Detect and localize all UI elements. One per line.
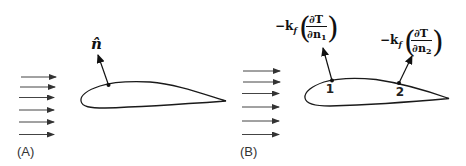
normal-vector-arrow [98, 55, 109, 85]
heat-flux-arrow [323, 48, 332, 81]
svg-text:−kf: −kf [380, 33, 403, 49]
right-paren: ) [327, 10, 339, 45]
heat-flux-label-2: −kf ( ∂T ∂n2 ) [380, 24, 444, 59]
airfoil-a [81, 82, 226, 108]
denominator: ∂n [307, 28, 321, 41]
panel-label-a: (A) [17, 144, 34, 159]
right-paren: ) [432, 24, 444, 59]
svg-text:∂n1: ∂n1 [307, 28, 326, 42]
flow-arrows-a [19, 77, 56, 135]
heat-flux-arrow [399, 56, 412, 83]
flux-sub: f [397, 39, 403, 49]
svg-text:−kf: −kf [275, 19, 298, 35]
normal-label: n̂ [91, 35, 102, 53]
panel-label-b: (B) [240, 144, 257, 159]
flux-prefix: −k [275, 19, 294, 33]
surface-point-1: 1 [323, 48, 334, 96]
numerator: ∂T [309, 13, 324, 26]
flux-sub: f [292, 25, 298, 35]
numerator: ∂T [414, 27, 429, 40]
denominator-sub: 2 [426, 46, 432, 56]
point-label: 2 [396, 85, 404, 99]
denominator-sub: 1 [321, 32, 327, 42]
point-label: 1 [326, 82, 334, 96]
heat-flux-label-1: −kf ( ∂T ∂n1 ) [275, 10, 339, 45]
surface-point-2: 2 [396, 56, 412, 99]
svg-text:∂n2: ∂n2 [412, 42, 431, 56]
flow-arrows-b [242, 71, 280, 135]
airfoil-heat-flux-diagram: n̂ (A) 1 2 −kf ( [0, 0, 466, 166]
denominator: ∂n [412, 42, 426, 55]
panel-a: n̂ (A) [17, 35, 226, 159]
flux-prefix: −k [380, 33, 399, 47]
panel-b: 1 2 −kf ( ∂T ∂n1 ) −kf ( [240, 10, 449, 159]
